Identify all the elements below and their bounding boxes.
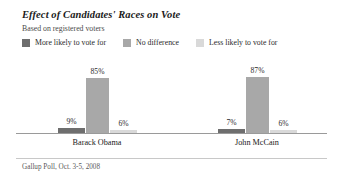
bar-value-label: 6% — [278, 119, 288, 128]
chart-subtitle: Based on registered voters — [22, 24, 105, 33]
legend-label: More likely to vote for — [35, 38, 106, 47]
legend-swatch-icon — [123, 39, 131, 47]
axis-baseline — [16, 133, 327, 134]
legend-item-more-likely: More likely to vote for — [22, 38, 106, 47]
legend-swatch-icon — [22, 39, 30, 47]
chart-legend: More likely to vote for No difference Le… — [22, 38, 294, 47]
legend-item-less-likely: Less likely to vote for — [196, 38, 277, 47]
bar-value-label: 7% — [226, 118, 236, 127]
divider — [16, 158, 327, 159]
chart-figure: Effect of Candidates' Races on Vote Base… — [0, 0, 343, 182]
page-title: Effect of Candidates' Races on Vote — [22, 9, 180, 20]
bar-fill — [86, 78, 109, 134]
bar-value-label: 85% — [91, 67, 105, 76]
plot-area: 9% 85% 6% 7% 87% 6% — [0, 56, 343, 134]
legend-swatch-icon — [196, 39, 204, 47]
group-label-obama: Barack Obama — [73, 138, 122, 147]
bar-fill — [246, 77, 269, 134]
legend-label: Less likely to vote for — [209, 38, 277, 47]
legend-label: No difference — [136, 38, 179, 47]
source-note: Gallup Poll, Oct. 3-5, 2008 — [22, 163, 100, 171]
bar-value-label: 9% — [66, 117, 76, 126]
group-label-mccain: John McCain — [235, 138, 279, 147]
bar-value-label: 6% — [118, 119, 128, 128]
bar-value-label: 87% — [251, 66, 265, 75]
legend-item-no-difference: No difference — [123, 38, 179, 47]
